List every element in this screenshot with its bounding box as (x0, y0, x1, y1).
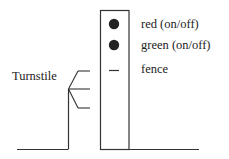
turnstile-arm-upper (69, 71, 79, 89)
turnstile-label: Turnstile (12, 69, 57, 83)
signal-box (101, 11, 130, 150)
green-light-icon (109, 40, 119, 50)
legend-label-fence: fence (141, 62, 169, 76)
legend-label-red: red (on/off) (141, 17, 199, 31)
turnstile-arm-lower (69, 89, 79, 108)
turnstile-diagram: Turnstile red (on/off) green (on/off) fe… (0, 0, 229, 159)
legend-label-green: green (on/off) (141, 38, 211, 52)
red-light-icon (109, 19, 119, 29)
